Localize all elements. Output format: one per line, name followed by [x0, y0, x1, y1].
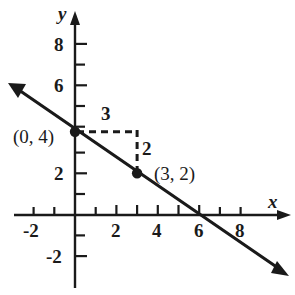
- x-tick-label-8: 8: [235, 221, 245, 240]
- x-tick-label-neg2: -2: [23, 221, 39, 240]
- graph-figure: y x 8 6 2 -2 -2 2 4 6 8 (0, 4) (3, 2) 3 …: [0, 0, 295, 295]
- point-label-0-4: (0, 4): [13, 127, 54, 146]
- point-marker-3-2: [132, 168, 142, 178]
- y-axis: [70, 11, 80, 288]
- x-axis: [14, 210, 291, 220]
- rise-label: 2: [142, 139, 152, 158]
- point-label-3-2: (3, 2): [154, 164, 195, 183]
- y-tick-label-8: 8: [54, 35, 64, 54]
- y-axis-label: y: [58, 4, 66, 23]
- point-marker-0-4: [70, 127, 80, 137]
- y-tick-label-neg2: -2: [46, 247, 62, 266]
- x-axis-ticks: [34, 205, 241, 215]
- x-tick-label-4: 4: [152, 221, 162, 240]
- run-label: 3: [101, 104, 111, 123]
- x-tick-label-6: 6: [194, 221, 204, 240]
- y-axis-ticks: [75, 44, 87, 256]
- y-tick-label-2: 2: [54, 164, 64, 183]
- y-tick-label-6: 6: [54, 76, 64, 95]
- x-axis-label: x: [268, 192, 278, 211]
- x-tick-label-2: 2: [111, 221, 121, 240]
